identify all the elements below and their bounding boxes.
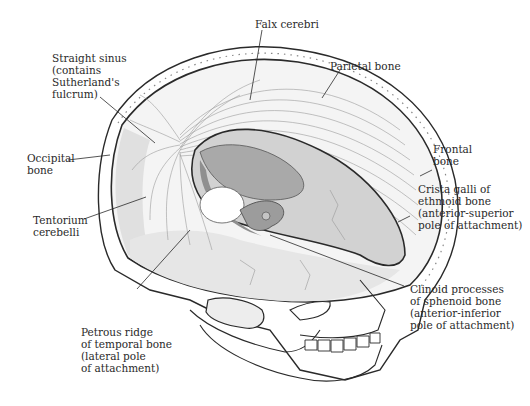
label-tentorium-cerebelli: Tentorium cerebelli [33, 214, 88, 238]
sella-turcica [262, 212, 270, 220]
label-parietal-bone: Parietal bone [330, 60, 401, 72]
label-clinoid-processes: Clinoid processes of sphenoid bone (ante… [410, 283, 514, 331]
label-crista-galli: Crista galli of ethmoid bone (anterior-s… [418, 183, 522, 231]
foramen-opening [200, 187, 244, 223]
label-petrous-ridge: Petrous ridge of temporal bone (lateral … [81, 326, 172, 374]
label-falx-cerebri: Falx cerebri [255, 18, 319, 30]
label-occipital-bone: Occipital bone [27, 152, 75, 176]
label-straight-sinus: Straight sinus (contains Sutherland's fu… [52, 52, 127, 100]
anatomy-figure: Falx cerebri Parietal bone Straight sinu… [0, 0, 530, 406]
label-frontal-bone: Frontal bone [433, 143, 472, 167]
